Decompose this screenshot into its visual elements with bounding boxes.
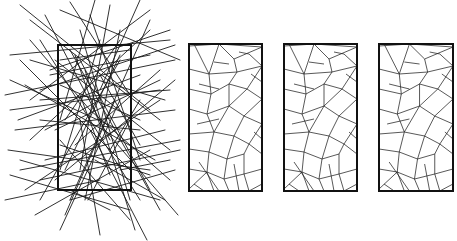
tessellation-edge (384, 184, 394, 191)
tessellation-edge (304, 72, 332, 74)
tessellation-edge (247, 66, 262, 89)
tessellation-edge (219, 44, 234, 59)
tessellation-edge (379, 89, 401, 94)
tessellation-edge (319, 179, 324, 191)
tessellation-edge (234, 47, 262, 59)
tessellation-edge (435, 116, 453, 124)
tessellation-edge (207, 114, 214, 132)
tessellation-edge (194, 44, 209, 74)
tessellation-edge (399, 74, 401, 94)
tessellation-edge (224, 174, 244, 179)
random-lines-panel (5, 0, 180, 240)
tessellation-edge (194, 184, 204, 191)
tessellation-edge (435, 99, 453, 116)
tessellation-edge (214, 106, 229, 132)
tessellation-edge (324, 84, 342, 89)
tessellation-edge (214, 62, 229, 64)
tessellation-edge (329, 164, 334, 191)
tessellation-edge (254, 132, 262, 139)
tessellation-edge (399, 72, 427, 74)
tessellation-edge (339, 144, 344, 154)
tessellation-edge (249, 144, 262, 154)
tessellation-edge (329, 59, 332, 72)
tessellation-edge (342, 66, 357, 89)
tessellation-edge (404, 132, 424, 136)
tessellation-edge (304, 74, 306, 94)
tessellation-edge (302, 152, 304, 172)
tessellation-edge (339, 116, 357, 124)
tessellation-edge (209, 74, 211, 94)
tessellation-edge (324, 72, 332, 84)
tessellation-edge (440, 54, 453, 66)
tessellation-edge (399, 132, 404, 152)
tessellation-edge (207, 152, 209, 172)
tessellation-edge (425, 164, 430, 191)
tessellation-edge (284, 69, 304, 74)
tessellation-edge (209, 132, 214, 152)
tessellation-edge (339, 174, 344, 191)
tessellation-edge (306, 84, 324, 94)
tessellation-edge (329, 47, 357, 59)
tessellation-edge (379, 69, 399, 74)
tessellation-edge (189, 132, 214, 134)
tessellation-edge (229, 89, 247, 106)
tessellation-edge (319, 159, 322, 179)
tessellation-edge (409, 44, 424, 59)
tessellation-edge (425, 136, 440, 144)
tessellation-edge (389, 84, 409, 89)
tessellation-edge (322, 154, 339, 159)
tessellation-edge (425, 47, 453, 59)
tessellation-edge (329, 116, 339, 136)
tessellation-edge (244, 174, 249, 191)
tessellation-edge (404, 106, 419, 132)
tessellation-edge (229, 72, 237, 84)
tessellation-edge (189, 69, 209, 74)
tessellation-edge (418, 136, 425, 159)
line-segment (10, 40, 170, 55)
tessellation-edge (209, 152, 227, 159)
tessellation-edge (209, 72, 237, 74)
tessellation-edge (207, 106, 229, 114)
tessellation-edge (420, 89, 438, 106)
tessellation-edge (440, 184, 453, 191)
tessellation-edge (284, 109, 302, 114)
tessellation-edge (342, 89, 357, 99)
tessellation-edge (209, 44, 219, 74)
tessellation-edge (304, 152, 322, 159)
tessellation-edge (344, 54, 357, 66)
tessellation-edge (249, 184, 262, 191)
tessellation-edge (234, 136, 249, 144)
tessellation-edge (304, 132, 309, 152)
tessellation-edge (329, 136, 344, 144)
tessellation-edge (344, 124, 357, 144)
tessellation-edge (234, 116, 244, 136)
tessellation-edge (294, 84, 314, 89)
tessellation-edge (425, 59, 428, 72)
tessellation-edge (284, 149, 304, 152)
tessellation-edge (234, 59, 237, 72)
tessellation-edge (435, 169, 453, 174)
tessellation-edge (302, 114, 309, 132)
tessellation-edge (302, 94, 306, 114)
tessellation-edge (414, 174, 434, 179)
tessellation-edge (420, 106, 435, 116)
tessellation-edge (224, 179, 229, 191)
tessellation-edge (284, 132, 309, 134)
tessellation-edge (379, 132, 404, 134)
tessellation-edge (189, 109, 207, 114)
tessellation-edge (284, 89, 306, 94)
tessellation-edge (397, 94, 401, 114)
tessellation-edge (249, 124, 262, 144)
tessellation-edge (244, 116, 262, 124)
tessellation-edge (229, 106, 244, 116)
tessellation-edge (289, 184, 299, 191)
tessellation-edge (399, 152, 417, 159)
tessellation-edge (319, 174, 339, 179)
tessellation-edge (244, 99, 262, 116)
line-segment (10, 175, 130, 210)
tessellation-edge (418, 154, 435, 159)
tessellation-edge (414, 159, 417, 179)
tessellation-edge (339, 99, 357, 116)
tessellation-edge (379, 109, 397, 114)
tessellation-edge (189, 89, 211, 94)
